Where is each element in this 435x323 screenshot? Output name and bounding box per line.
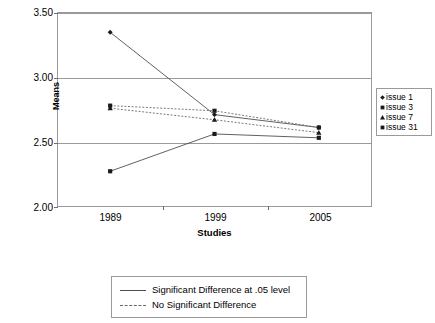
- series-legend-item[interactable]: issue 7: [379, 112, 428, 122]
- series-legend-label: issue 3: [386, 102, 413, 112]
- series-legend-label: issue 1: [386, 92, 413, 102]
- line-style-legend-label: No Significant Difference: [152, 299, 256, 310]
- line-style-legend: Significant Difference at .05 levelNo Si…: [111, 276, 307, 318]
- series-legend-label: issue 31: [386, 122, 418, 132]
- plot-area: Means 2.002.503.003.50 198919992005 Stud…: [57, 12, 372, 207]
- series-plot: [58, 13, 371, 206]
- series-line: [110, 134, 319, 171]
- series-issue-1: [108, 30, 322, 130]
- data-point-marker: [108, 169, 112, 173]
- series-legend-item[interactable]: issue 31: [379, 122, 428, 132]
- x-tick-mark: [268, 206, 269, 210]
- series-legend-label: issue 7: [386, 112, 413, 122]
- y-tick-mark: [54, 207, 58, 208]
- x-tick-label: 2005: [309, 212, 331, 223]
- data-point-marker: [212, 132, 216, 136]
- line-style-legend-item[interactable]: No Significant Difference: [120, 297, 300, 312]
- series-issue-31: [108, 132, 321, 173]
- diamond-marker-icon: [379, 92, 386, 102]
- square-marker-icon: [379, 122, 386, 132]
- y-tick-label: 3.00: [34, 73, 53, 83]
- line-style-legend-item[interactable]: Significant Difference at .05 level: [120, 282, 300, 297]
- line-chart: Means 2.002.503.003.50 198919992005 Stud…: [0, 0, 435, 323]
- data-point-marker: [212, 117, 217, 122]
- solid-line-icon: [120, 285, 146, 295]
- series-legend: issue 1issue 3issue 7issue 31: [376, 88, 432, 136]
- triangle-marker-icon: [379, 112, 386, 122]
- series-legend-item[interactable]: issue 3: [379, 102, 428, 112]
- x-tick-label: 1989: [99, 212, 121, 223]
- x-axis-title: Studies: [58, 227, 371, 238]
- y-tick-label: 2.50: [34, 138, 53, 148]
- line-style-legend-label: Significant Difference at .05 level: [152, 284, 290, 295]
- data-point-marker: [212, 109, 216, 113]
- square-marker-icon: [379, 102, 386, 112]
- data-point-marker: [317, 125, 321, 129]
- y-tick-label: 3.50: [34, 8, 53, 18]
- x-tick-label: 1999: [204, 212, 226, 223]
- dashed-line-icon: [120, 300, 146, 310]
- series-legend-item[interactable]: issue 1: [379, 92, 428, 102]
- y-tick-label: 2.00: [34, 203, 53, 213]
- data-point-marker: [317, 136, 321, 140]
- x-tick-mark: [163, 206, 164, 210]
